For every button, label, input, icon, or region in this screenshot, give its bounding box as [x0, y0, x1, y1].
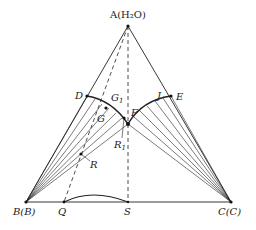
label-Q: Q [58, 206, 66, 217]
label-G: G [97, 113, 105, 124]
label-B: B(B) [12, 206, 36, 217]
point-B [24, 200, 27, 203]
dashed-lines [64, 26, 128, 202]
point-S [127, 201, 129, 203]
label-D: D [74, 90, 83, 101]
tie-lines-C [128, 96, 231, 202]
label-R: R [89, 159, 98, 170]
label-E: E [175, 91, 184, 102]
point-G1 [104, 106, 107, 109]
tie-lines-B [26, 96, 128, 202]
label-C: C(C) [218, 206, 241, 217]
label-S: S [124, 206, 131, 217]
label-A: A(H₂O) [109, 9, 146, 20]
point-R [79, 152, 82, 155]
ternary-phase-diagram: A(H₂O) B(B) C(C) D E F G1 G J R R1 Q S [0, 0, 256, 230]
point-D [85, 94, 88, 97]
point-F [126, 122, 130, 126]
R-leader [81, 154, 90, 161]
curve-Q-S [64, 195, 128, 202]
point-C [229, 200, 232, 203]
point-R1 [122, 116, 125, 119]
label-R1: R1 [113, 139, 126, 152]
label-G1: G1 [111, 92, 123, 105]
point-E [169, 94, 172, 97]
label-F: F [130, 107, 139, 118]
label-J: J [155, 90, 162, 101]
point-A [126, 24, 129, 27]
triangle-outline [26, 26, 231, 202]
points [24, 24, 232, 203]
point-Q [63, 201, 66, 204]
